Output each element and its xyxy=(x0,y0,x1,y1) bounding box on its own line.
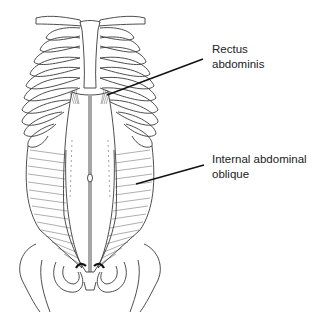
label-rectus-line-2: abdominis xyxy=(212,57,264,72)
leader-line-rectus xyxy=(107,59,203,95)
label-rectus-line-1: Rectus xyxy=(212,42,264,57)
sternum xyxy=(80,21,100,89)
label-oblique-line-2: oblique xyxy=(212,167,307,182)
label-internal-abdominal-oblique: Internal abdominal oblique xyxy=(212,152,307,182)
leader-line-oblique xyxy=(136,165,204,184)
rectus-abdominis xyxy=(63,90,116,272)
label-oblique-line-1: Internal abdominal xyxy=(212,152,307,167)
label-rectus-abdominis: Rectus abdominis xyxy=(212,42,264,72)
